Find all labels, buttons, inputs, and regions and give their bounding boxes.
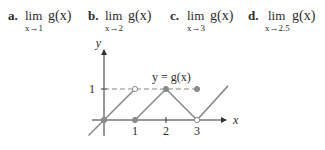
filled-point bbox=[163, 86, 168, 91]
graph-segment bbox=[89, 89, 136, 136]
x-tick-label: 3 bbox=[194, 124, 200, 138]
function-label: y = g(x) bbox=[152, 70, 191, 84]
x-tick-label: 1 bbox=[132, 124, 138, 138]
graph-of-g: 1231xyy = g(x) bbox=[0, 0, 325, 150]
open-point bbox=[132, 86, 137, 91]
y-axis-label: y bbox=[95, 36, 102, 50]
x-axis-label: x bbox=[232, 113, 239, 127]
filled-point bbox=[132, 117, 137, 122]
graph-segment bbox=[197, 86, 228, 120]
x-tick-label: 2 bbox=[163, 124, 169, 138]
filled-point bbox=[194, 86, 199, 91]
graph-segment bbox=[166, 89, 197, 120]
open-point bbox=[194, 117, 199, 122]
graph-segment bbox=[135, 89, 166, 120]
y-tick-label: 1 bbox=[89, 82, 95, 96]
filled-point bbox=[101, 117, 106, 122]
